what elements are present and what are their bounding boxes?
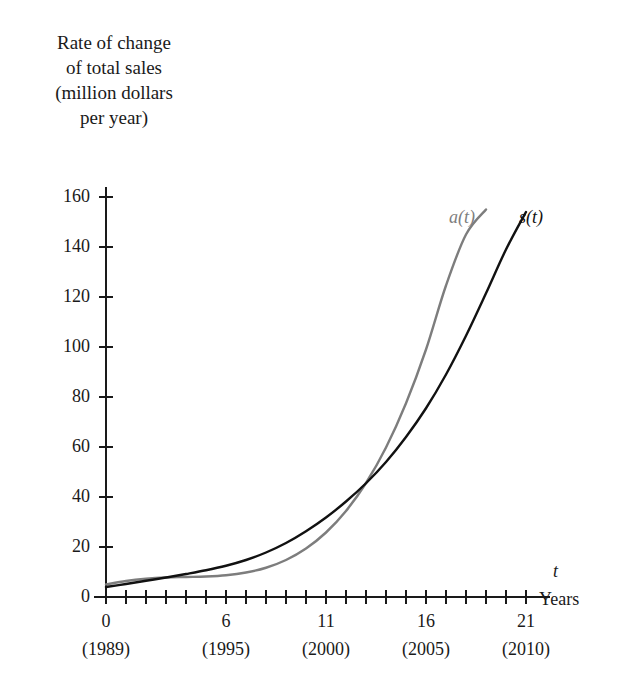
chart-figure: Rate of change of total sales (million d…: [0, 0, 623, 700]
series-curve-st: [106, 212, 526, 587]
plot-canvas: [0, 0, 623, 700]
series-curve-at: [106, 210, 486, 585]
